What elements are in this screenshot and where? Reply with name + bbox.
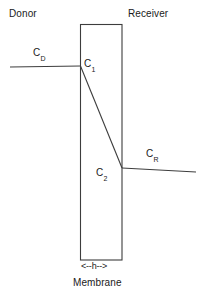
donor-concentration-line	[10, 66, 81, 67]
c2-subscript: 2	[104, 175, 108, 182]
membrane-thickness-annotation: <--h-->	[81, 261, 107, 271]
donor-region-label: Donor	[9, 8, 37, 19]
cr-subscript: R	[154, 156, 159, 163]
membrane-receiver-side-concentration-label: C2	[96, 167, 107, 178]
c1-symbol: C	[84, 58, 91, 69]
receiver-concentration-label: CR	[146, 148, 158, 159]
diagram-canvas	[0, 0, 208, 300]
cr-symbol: C	[146, 148, 153, 159]
donor-concentration-label: CD	[33, 47, 45, 58]
membrane-caption-label: Membrane	[73, 277, 122, 288]
cd-subscript: D	[41, 55, 46, 62]
c2-symbol: C	[96, 167, 103, 178]
membrane-diffusion-diagram: Donor Receiver CD C1 C2 CR <--h--> Membr…	[0, 0, 208, 300]
receiver-region-label: Receiver	[128, 8, 168, 19]
cd-symbol: C	[33, 47, 40, 58]
membrane-donor-side-concentration-label: C1	[84, 58, 95, 69]
receiver-concentration-line	[122, 168, 196, 172]
c1-subscript: 1	[92, 66, 96, 73]
